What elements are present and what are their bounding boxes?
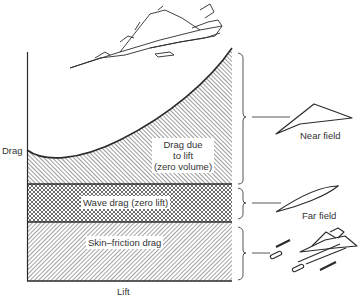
brace-near-field <box>238 53 290 184</box>
wave-drag-label: Wave drag (zero lift) <box>81 196 170 209</box>
aircraft-icon <box>70 4 222 68</box>
drag-due-to-lift-label: Drag due to lift (zero volume) <box>152 138 214 173</box>
near-field-label: Near field <box>300 130 341 141</box>
skin-friction-label: Skin–friction drag <box>86 236 163 249</box>
brace-skin-friction <box>238 227 270 280</box>
drag-axis-label: Drag <box>2 145 23 156</box>
slender-body-icon <box>276 186 338 212</box>
region-skin-friction <box>27 222 232 281</box>
lift-axis-label: Lift <box>117 286 130 297</box>
far-field-label: Far field <box>302 210 336 221</box>
aircraft-exploded-icon <box>270 228 357 272</box>
brace-far-field <box>238 188 281 219</box>
